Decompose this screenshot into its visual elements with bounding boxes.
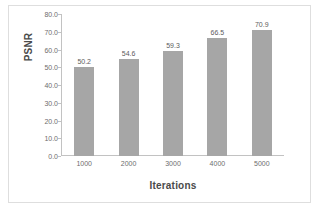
bar: [252, 30, 272, 156]
bar: [74, 67, 94, 156]
bar-value-label: 54.6: [122, 50, 136, 57]
x-tick-label: 4000: [210, 160, 226, 167]
y-tick-label: 0.0: [32, 153, 58, 160]
y-tick-label: 10.0: [32, 135, 58, 142]
bar-group: 59.3: [151, 14, 195, 156]
y-tick-mark: [58, 121, 61, 122]
y-tick-mark: [58, 32, 61, 33]
bar-series: 50.254.659.366.570.9: [62, 14, 284, 156]
y-tick-mark: [58, 50, 61, 51]
y-tick-mark: [58, 138, 61, 139]
x-tick-label: 5000: [254, 160, 270, 167]
bar-value-label: 50.2: [77, 58, 91, 65]
bar-group: 54.6: [106, 14, 150, 156]
y-tick-label: 40.0: [32, 82, 58, 89]
bar: [207, 38, 227, 156]
y-axis-tick-labels: 80.070.060.050.040.030.020.010.00.0: [32, 14, 58, 156]
y-tick-mark: [58, 67, 61, 68]
bar-value-label: 66.5: [211, 29, 225, 36]
x-tick-label: 1000: [76, 160, 92, 167]
y-tick-mark: [58, 14, 61, 15]
bar-value-label: 70.9: [255, 21, 269, 28]
y-tick-label: 30.0: [32, 99, 58, 106]
bar-group: 66.5: [195, 14, 239, 156]
plot-area: 50.254.659.366.570.9: [62, 14, 284, 156]
y-tick-mark: [58, 156, 61, 157]
bar-group: 50.2: [62, 14, 106, 156]
x-tick-label: 2000: [121, 160, 137, 167]
y-tick-mark: [58, 103, 61, 104]
bar-group: 70.9: [240, 14, 284, 156]
x-axis-title: Iterations: [62, 180, 284, 191]
chart-figure: PSNR 80.070.060.050.040.030.020.010.00.0…: [0, 0, 319, 211]
y-tick-label: 60.0: [32, 46, 58, 53]
bar: [119, 59, 139, 156]
bar: [163, 51, 183, 156]
x-axis-tick-labels: 10002000300040005000: [62, 160, 284, 172]
y-tick-label: 80.0: [32, 11, 58, 18]
x-tick-label: 3000: [165, 160, 181, 167]
y-tick-label: 70.0: [32, 28, 58, 35]
bar-value-label: 59.3: [166, 42, 180, 49]
y-tick-label: 20.0: [32, 117, 58, 124]
y-tick-mark: [58, 85, 61, 86]
y-tick-label: 50.0: [32, 64, 58, 71]
